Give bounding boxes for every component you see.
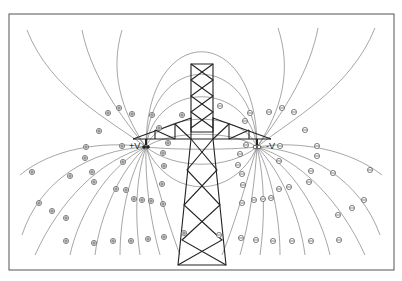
positive-ions [29, 105, 186, 245]
positive-voltage-label: +V [129, 142, 140, 151]
field-lines-positive [20, 30, 180, 255]
diagram-frame [9, 14, 394, 270]
field-diagram: +V -V [0, 0, 402, 281]
negative-voltage-label: -V [266, 142, 275, 151]
negative-ions [216, 103, 372, 243]
diagram-canvas [0, 0, 402, 281]
